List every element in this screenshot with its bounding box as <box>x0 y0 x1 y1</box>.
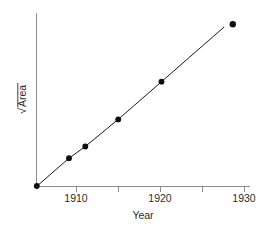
data-point <box>159 79 165 85</box>
data-point <box>34 183 40 189</box>
sqrt-radical-glyph: √ <box>16 107 28 114</box>
x-tick-label-1930: 1930 <box>232 192 256 204</box>
y-axis-title-group: √ Area <box>16 83 28 114</box>
scatter-line-plot: 1910 1920 1930 Year √ Area <box>0 0 276 227</box>
data-point <box>115 117 121 123</box>
data-point <box>66 155 72 161</box>
x-tick-label-1910: 1910 <box>64 192 88 204</box>
x-axis-title: Year <box>132 209 154 221</box>
data-point <box>82 144 88 150</box>
x-tick-labels: 1910 1920 1930 <box>64 192 256 204</box>
x-tick-marks <box>77 187 245 192</box>
x-tick-label-1920: 1920 <box>148 192 172 204</box>
chart-figure: 1910 1920 1930 Year √ Area <box>0 0 276 227</box>
data-point <box>230 21 236 27</box>
series-line-sqrt-area <box>37 27 225 187</box>
